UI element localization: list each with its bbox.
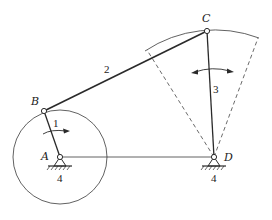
joint-a xyxy=(57,154,62,159)
label-point-b: B xyxy=(30,95,39,108)
rocker-extreme-left-dashed xyxy=(147,50,214,157)
label-ground-d: 4 xyxy=(211,172,217,184)
label-point-d: D xyxy=(223,151,233,164)
coupler-link-2 xyxy=(44,31,207,111)
joint-c xyxy=(204,28,209,33)
label-point-a: A xyxy=(40,150,49,163)
linkage-diagram: A B C D 1 2 3 4 4 xyxy=(0,0,272,220)
label-link-3: 3 xyxy=(213,83,219,95)
rocker-extreme-right-dashed xyxy=(214,38,258,157)
crank-rotation-arrow-icon xyxy=(43,129,70,135)
label-point-c: C xyxy=(202,12,211,25)
joint-b xyxy=(41,108,46,113)
rocker-oscillation-arrow-icon xyxy=(191,69,234,75)
label-link-1: 1 xyxy=(53,117,59,129)
label-link-2: 2 xyxy=(104,63,110,75)
joint-d xyxy=(211,154,216,159)
label-ground-a: 4 xyxy=(57,172,63,184)
